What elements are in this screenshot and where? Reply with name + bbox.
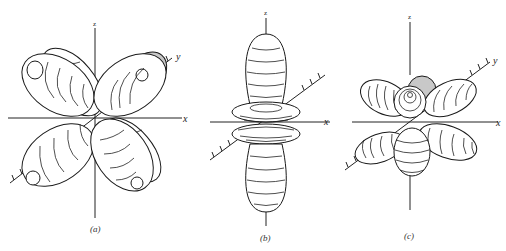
caption-a: (a) xyxy=(90,224,101,234)
lobe-front-lower xyxy=(394,128,430,176)
lobe-lower-left xyxy=(10,111,105,199)
lobe-lower xyxy=(246,144,287,212)
lobe-upper xyxy=(246,34,287,105)
y-axis-label: y xyxy=(492,55,498,66)
torus-upper xyxy=(232,102,300,122)
x-axis-label: x xyxy=(182,113,188,124)
lobe-front-upper xyxy=(394,86,426,118)
x-axis-label: x xyxy=(323,116,329,127)
z-axis-label: z xyxy=(93,20,96,28)
y-axis-label: y xyxy=(175,51,181,62)
panel-b: z x (b) xyxy=(200,0,330,251)
orbital-diagram-b: z x (b) xyxy=(200,0,330,251)
z-axis-label: z xyxy=(264,9,267,17)
orbital-diagram-c: z x y (c) xyxy=(330,0,506,251)
caption-b: (b) xyxy=(260,233,271,243)
x-axis-label: x xyxy=(495,117,501,128)
panel-a: z x y (a) xyxy=(0,0,200,251)
caption-c: (c) xyxy=(404,231,414,241)
panel-c: z x y (c) xyxy=(330,0,506,251)
torus-lower xyxy=(232,124,300,144)
z-axis-label: z xyxy=(408,13,411,21)
orbital-diagram-a: z x y (a) xyxy=(0,0,200,251)
